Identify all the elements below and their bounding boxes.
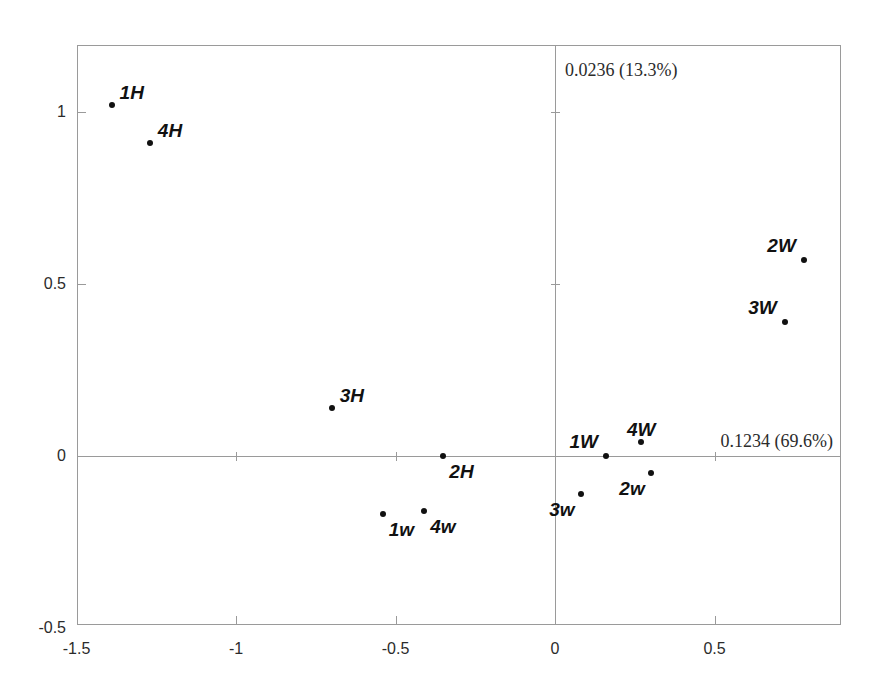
data-point-label-1H: 1H [120,83,144,102]
y-tick-label: 1 [18,104,66,120]
x-axis-zero-tick [715,452,716,461]
data-point-1W [603,453,609,459]
data-point-2w [648,470,654,476]
x-tick-label: 0.5 [703,641,725,657]
y-tick-label: -0.5 [18,620,66,636]
x-axis-title: 0.1234 (69.6%) [721,432,833,450]
y-axis-title: 0.0236 (13.3%) [565,61,677,79]
data-point-label-2W: 2W [767,236,796,255]
horizontal-zero-axis [77,456,841,457]
data-point-label-2w: 2w [619,479,644,498]
data-point-2H [440,453,446,459]
y-axis-tick [77,284,86,285]
x-tick-label: -0.5 [382,641,410,657]
y-tick-label: 0 [18,448,66,464]
x-tick-label: -1.5 [63,641,91,657]
x-tick-label: -1 [229,641,243,657]
data-point-4H [147,140,153,146]
data-point-label-4w: 4w [430,517,455,536]
data-point-3H [329,405,335,411]
plot-area: 1H4H3H2H1w4w3w1W4W2w3W2W [77,45,841,625]
x-tick-label: 0 [551,641,560,657]
data-point-1w [380,511,386,517]
x-axis-tick [236,616,237,625]
y-axis-zero-tick [551,112,560,113]
y-tick-label: 0.5 [18,276,66,292]
x-axis-tick [715,616,716,625]
y-axis-zero-tick [551,284,560,285]
data-point-label-4H: 4H [158,121,182,140]
data-point-4w [421,508,427,514]
data-point-3w [578,491,584,497]
x-axis-tick [396,616,397,625]
data-point-label-3W: 3W [748,298,777,317]
data-point-3W [782,319,788,325]
data-point-2W [801,257,807,263]
data-point-label-1W: 1W [570,432,599,451]
y-axis-tick [77,112,86,113]
x-axis-zero-tick [236,452,237,461]
data-point-label-1w: 1w [389,520,414,539]
x-axis-zero-tick [396,452,397,461]
scatter-plot-figure: 1H4H3H2H1w4w3w1W4W2w3W2W -1.5-1-0.500.5-… [0,0,889,696]
data-point-label-2H: 2H [449,462,473,481]
data-point-1H [109,102,115,108]
data-point-label-3H: 3H [340,386,364,405]
data-point-label-4W: 4W [627,420,656,439]
x-axis-tick [555,616,556,625]
vertical-zero-axis [555,45,556,625]
y-axis-tick [77,456,86,457]
data-point-label-3w: 3w [549,500,574,519]
